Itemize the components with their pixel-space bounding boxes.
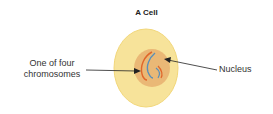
cell-diagram <box>0 0 273 114</box>
chromosome-label: One of four chromosomes <box>20 58 84 80</box>
cell-nucleus <box>134 49 170 87</box>
nucleus-label: Nucleus <box>219 64 252 75</box>
